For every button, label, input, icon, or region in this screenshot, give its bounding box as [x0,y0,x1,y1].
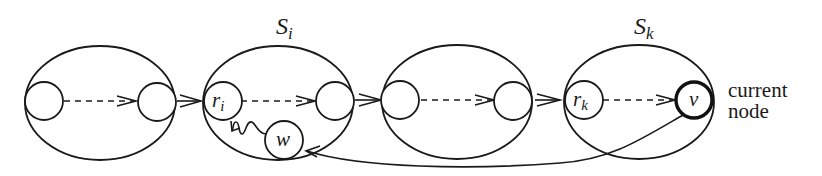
node-set3-left [381,81,419,119]
node-label-w: w [276,127,290,151]
node-set1-left [25,82,63,120]
annotation-node: node [728,99,769,123]
node-set1-right [138,83,176,121]
node-si-right [316,82,354,120]
node-set3-right [494,82,532,120]
wavy-path-w-to-ri [232,122,266,134]
set-label-si: Si [276,13,293,43]
component-chain-diagram: Si Sk ri w rk v current n [0,0,822,176]
set-label-sk: Sk [634,13,654,43]
node-label-v: v [689,87,699,111]
